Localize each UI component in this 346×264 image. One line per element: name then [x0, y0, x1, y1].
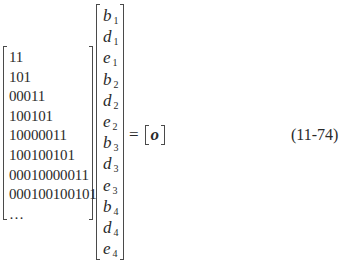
vector-entry: b3	[103, 132, 119, 153]
entry-symbol: b	[103, 6, 112, 25]
rhs-left-bracket	[145, 125, 149, 145]
entry-symbol: e	[103, 176, 111, 195]
matrix-row: 00011	[9, 87, 97, 107]
vector-entry: d1	[103, 26, 119, 47]
equation-rhs: =o	[129, 124, 165, 146]
entry-subscript: 2	[114, 79, 119, 90]
matrix-row: 100101	[9, 107, 97, 127]
entry-subscript: 4	[113, 248, 118, 259]
equals-sign: =	[129, 125, 139, 144]
entry-subscript: 2	[113, 121, 118, 132]
entry-subscript: 2	[114, 100, 119, 111]
equation-number: (11-74)	[291, 124, 338, 146]
vector-entry: b2	[103, 69, 119, 90]
entry-symbol: b	[103, 133, 112, 152]
entry-subscript: 4	[114, 206, 119, 217]
vector-entry: d3	[103, 153, 119, 174]
entry-subscript: 3	[113, 185, 118, 196]
entry-subscript: 4	[114, 227, 119, 238]
entry-subscript: 1	[114, 15, 119, 26]
matrix-row: 000100100101	[9, 185, 97, 205]
entry-symbol: d	[103, 27, 112, 46]
matrix-row: 101	[9, 68, 97, 88]
matrix-row-ellipsis: …	[9, 205, 97, 225]
vector-entries: b1 d1 e1 b2 d2 e2 b3 d3 e3 b4 d4 e4	[103, 5, 119, 259]
matrix-left-bracket	[3, 46, 7, 220]
entry-symbol: d	[103, 154, 112, 173]
matrix-row: 11	[9, 48, 97, 68]
entry-symbol: e	[103, 48, 111, 67]
zero-vector: o	[145, 124, 166, 146]
entry-symbol: d	[103, 91, 112, 110]
vector-entry: b4	[103, 196, 119, 217]
unknown-vector: b1 d1 e1 b2 d2 e2 b3 d3 e3 b4 d4 e4	[96, 4, 124, 260]
entry-symbol: e	[103, 112, 111, 131]
entry-symbol: b	[103, 70, 112, 89]
entry-symbol: e	[103, 239, 111, 258]
rhs-right-bracket	[161, 125, 165, 145]
vector-entry: e3	[103, 175, 119, 196]
entry-symbol: d	[103, 218, 112, 237]
vector-left-bracket	[96, 4, 100, 260]
entry-subscript: 3	[114, 163, 119, 174]
matrix-row: 100100101	[9, 146, 97, 166]
matrix-row: 00010000011	[9, 166, 97, 186]
entry-subscript: 3	[114, 142, 119, 153]
vector-entry: e2	[103, 111, 119, 132]
vector-entry: d2	[103, 90, 119, 111]
vector-entry: e1	[103, 47, 119, 68]
vector-right-bracket	[120, 4, 124, 260]
entry-subscript: 1	[113, 57, 118, 68]
vector-entry: d4	[103, 217, 119, 238]
vector-entry: b1	[103, 5, 119, 26]
vector-entry: e4	[103, 238, 119, 259]
entry-subscript: 1	[114, 36, 119, 47]
matrix-row: 10000011	[9, 126, 97, 146]
zero-vector-symbol: o	[151, 125, 160, 144]
entry-symbol: b	[103, 197, 112, 216]
coefficient-matrix: 11 101 00011 100101 10000011 100100101 0…	[3, 46, 93, 220]
matrix-rows: 11 101 00011 100101 10000011 100100101 0…	[9, 48, 97, 224]
